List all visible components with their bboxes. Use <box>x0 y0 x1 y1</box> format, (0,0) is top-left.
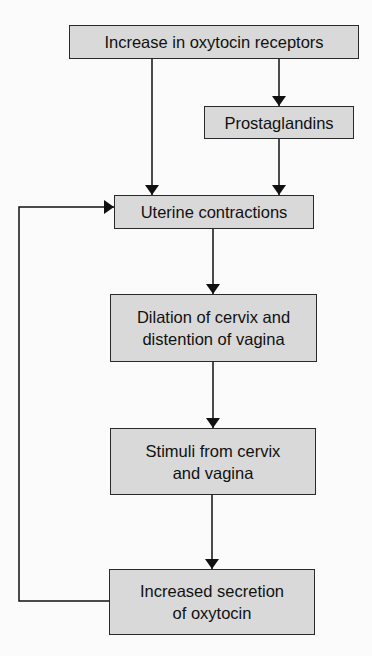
node-oxytocin-receptors: Increase in oxytocin receptors <box>69 25 359 59</box>
node-stimuli: Stimuli from cervix and vagina <box>110 428 316 495</box>
node-label: Stimuli from cervix and vagina <box>141 440 285 484</box>
node-label: Dilation of cervix and distention of vag… <box>125 306 302 350</box>
node-uterine-contractions: Uterine contractions <box>114 195 314 229</box>
feedback-loop-arrow <box>19 207 114 601</box>
node-label: Increase in oxytocin receptors <box>104 31 323 53</box>
node-dilation: Dilation of cervix and distention of vag… <box>110 294 317 362</box>
node-oxytocin-secretion: Increased secretion of oxytocin <box>109 569 315 635</box>
node-prostaglandins: Prostaglandins <box>204 106 354 139</box>
node-label: Increased secretion of oxytocin <box>134 580 290 624</box>
node-label: Uterine contractions <box>141 201 288 223</box>
node-label: Prostaglandins <box>224 112 333 134</box>
